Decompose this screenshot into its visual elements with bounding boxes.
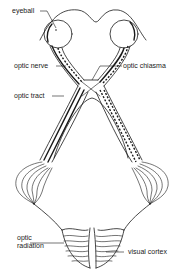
right-optic-tract [96,86,142,162]
left-eyeball [44,20,72,48]
right-eyeball [110,20,138,48]
left-optic-tract [40,86,88,162]
label-eyeball: eyeball [12,7,34,15]
visual-pathway-diagram: eyeball optic nerve optic chiasma optic … [0,0,184,274]
visual-cortex-region [62,228,124,268]
left-optic-radiation [16,162,62,230]
label-optic-radiation-line2: radiation [17,242,44,250]
label-optic-radiation-line1: optic [17,234,32,242]
optic-chiasma [82,80,100,96]
label-optic-nerve: optic nerve [14,62,48,70]
label-optic-chiasma: optic chiasma [123,62,166,70]
head-outline [40,10,146,40]
diagram-drawing [0,0,184,274]
right-optic-radiation [124,162,168,230]
left-optic-nerve [50,46,84,86]
label-visual-cortex: visual cortex [128,248,167,256]
label-optic-tract: optic tract [14,92,44,100]
